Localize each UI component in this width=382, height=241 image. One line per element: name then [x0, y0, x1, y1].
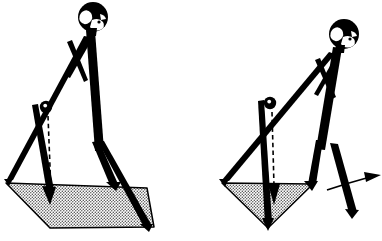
center-of-gravity-marker-right	[264, 97, 276, 109]
com-dot-highlight-right	[267, 100, 271, 104]
figure-canvas	[0, 0, 382, 241]
neck-left	[87, 28, 97, 36]
base-of-support-illustration	[0, 0, 382, 241]
eye-left	[97, 20, 100, 23]
eye-right	[348, 37, 351, 40]
com-dot-highlight-left	[43, 104, 47, 108]
center-of-gravity-marker-left	[40, 101, 52, 113]
neck-right	[335, 45, 345, 53]
